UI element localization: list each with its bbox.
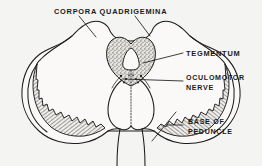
label-oculomotor-nerve-line1: OCULOMOTOR: [186, 74, 245, 82]
label-tegmentum: TEGMENTUM: [186, 49, 240, 58]
label-base-of-peduncle-line2: PEDUNCLE: [188, 128, 233, 136]
midbrain-diagram: CORPORA QUADRIGEMINA TEGMENTUM OCULOMOTO…: [0, 0, 262, 166]
label-oculomotor-nerve-line2: NERVE: [186, 84, 214, 92]
label-base-of-peduncle-line1: BASE OF: [188, 118, 224, 126]
label-corpora-quadrigemina: CORPORA QUADRIGEMINA: [54, 7, 167, 16]
